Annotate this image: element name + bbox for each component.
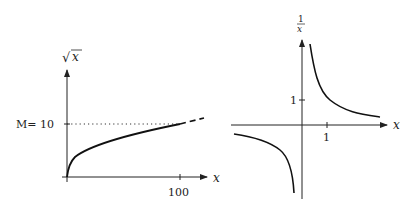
right-x-label: x — [393, 118, 400, 132]
figure: √ x x 100 M= 10 1 x x 1 1 — [0, 0, 412, 209]
reciprocal-plot: 1 x x 1 1 — [231, 14, 400, 199]
reciprocal-negative-branch — [234, 134, 294, 193]
sqrt-curve — [67, 124, 180, 177]
left-y-label: x — [72, 50, 79, 64]
x-tick-label-100: 100 — [168, 186, 189, 199]
m-label: M= 10 — [16, 118, 54, 131]
y-tick-label-1: 1 — [290, 94, 297, 107]
x-tick-label-1: 1 — [323, 131, 330, 144]
right-y-label-numerator: 1 — [298, 14, 304, 24]
sqrt-radical: √ — [62, 50, 71, 65]
reciprocal-positive-branch — [310, 44, 380, 117]
right-y-label-denominator: x — [297, 24, 302, 34]
sqrt-plot: √ x x 100 M= 10 — [16, 50, 220, 199]
sqrt-curve-dashed — [180, 118, 204, 124]
left-x-label: x — [213, 171, 220, 185]
